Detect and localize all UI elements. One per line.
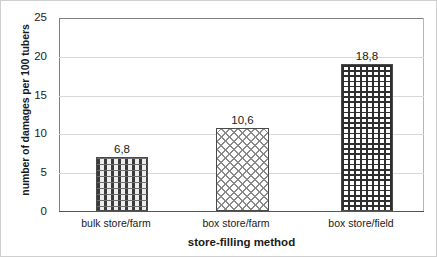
x-axis-line: [59, 211, 424, 212]
plot-frame-left: [59, 18, 60, 212]
y-tick-5: 5: [1, 167, 47, 178]
bar-box-store-farm[interactable]: [216, 128, 269, 211]
y-tick-0: 0: [1, 206, 47, 217]
plot-area: 6,8 10,6 18,8: [59, 18, 424, 212]
data-label-box-store-field: 18,8: [327, 50, 407, 62]
x-tick-box-store-field: box store/field: [281, 217, 437, 229]
plot-frame-top: [59, 18, 424, 19]
data-label-bulk-store-farm: 6,8: [82, 143, 162, 155]
y-tick-25: 25: [1, 12, 47, 23]
x-axis-title: store-filling method: [59, 236, 424, 248]
y-axis-tick-labels: 0 5 10 15 20 25: [1, 18, 53, 212]
y-tick-15: 15: [1, 90, 47, 101]
bar-box-store-field[interactable]: [341, 64, 393, 211]
bar-chart-figure: number of damages per 100 tubers 0 5 10 …: [0, 0, 437, 257]
plot-frame-right: [423, 18, 424, 212]
data-label-box-store-farm: 10,6: [203, 114, 283, 126]
y-tick-20: 20: [1, 51, 47, 62]
bar-bulk-store-farm[interactable]: [96, 157, 148, 211]
y-tick-10: 10: [1, 128, 47, 139]
